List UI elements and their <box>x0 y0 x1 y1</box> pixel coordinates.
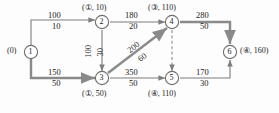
edge-4-6-flow: 50 <box>200 22 209 31</box>
node-3-state: (①, 50) <box>82 90 106 98</box>
edge-2-4-flow: 20 <box>129 22 138 31</box>
edge-1-3-capacity: 150 <box>48 68 61 77</box>
edge-5-6-flow: 30 <box>200 79 209 88</box>
network-diagram: 1 2 3 4 5 6 (0) (①, 10) (①, 50) (③, 110)… <box>0 0 279 113</box>
edge-2-3-capacity: 100 <box>84 45 93 58</box>
edge-3-5-flow: 50 <box>129 79 138 88</box>
edge-1-3 <box>31 59 95 78</box>
edge-1-3-flow: 50 <box>52 79 61 88</box>
node-2-label: 2 <box>100 17 104 26</box>
node-5-label: 5 <box>170 73 174 82</box>
node-3-label: 3 <box>100 73 104 82</box>
edge-1-2-capacity: 100 <box>48 11 61 20</box>
node-1-label: 1 <box>29 47 33 56</box>
edge-3-5-capacity: 350 <box>125 68 138 77</box>
edge-4-6-capacity: 280 <box>196 11 209 20</box>
edge-1-2 <box>31 20 95 45</box>
node-6-label: 6 <box>228 47 232 56</box>
node-6-state: (④, 160) <box>240 47 268 55</box>
edge-5-6-capacity: 170 <box>196 68 209 77</box>
node-5-state: (④, 110) <box>148 90 176 98</box>
node-4-state: (③, 110) <box>148 4 176 12</box>
edge-2-4-capacity: 180 <box>125 11 138 20</box>
node-1-state: (0) <box>7 47 16 55</box>
edge-1-2-flow: 10 <box>52 22 61 31</box>
node-2-state: (①, 10) <box>82 4 106 12</box>
node-4-label: 4 <box>170 17 174 26</box>
edge-2-3-flow: 30 <box>96 48 105 57</box>
